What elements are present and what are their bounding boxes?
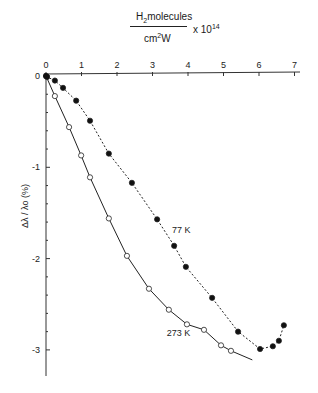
- data-point: [201, 327, 206, 332]
- data-point: [129, 180, 134, 185]
- chart-plot: 012345670-1-2-377 K273 K: [0, 0, 318, 393]
- data-point: [184, 322, 189, 327]
- x-tick-label: 2: [114, 60, 119, 70]
- data-point: [228, 348, 233, 353]
- x-tick-label: 4: [185, 60, 190, 70]
- curve-273k: [46, 76, 252, 360]
- curve-77k: [46, 76, 284, 349]
- data-point: [257, 346, 262, 351]
- y-tick-label: -3: [32, 345, 40, 355]
- data-point: [87, 118, 92, 123]
- data-point: [52, 93, 57, 98]
- x-tick-label: 7: [292, 60, 297, 70]
- data-point: [276, 338, 281, 343]
- data-point: [52, 78, 57, 83]
- x-tick-label: 1: [79, 60, 84, 70]
- origin-point: [43, 73, 49, 79]
- data-point: [146, 286, 151, 291]
- x-tick-label: 6: [256, 60, 261, 70]
- x-axis-line: [44, 72, 300, 74]
- series-label: 273 K: [167, 328, 191, 338]
- y-tick-label: 0: [35, 71, 40, 81]
- data-point: [87, 175, 92, 180]
- data-point: [166, 307, 171, 312]
- data-point: [106, 216, 111, 221]
- data-point: [74, 98, 79, 103]
- data-point: [235, 329, 240, 334]
- data-point: [124, 253, 129, 258]
- x-tick-label: 5: [221, 60, 226, 70]
- x-tick-label: 0: [43, 60, 48, 70]
- data-point: [218, 343, 223, 348]
- data-point: [106, 151, 111, 156]
- data-point: [281, 323, 286, 328]
- data-point: [172, 243, 177, 248]
- data-point: [66, 125, 71, 130]
- series-label: 77 K: [172, 225, 191, 235]
- data-point: [155, 217, 160, 222]
- data-point: [210, 295, 215, 300]
- x-tick-label: 3: [150, 60, 155, 70]
- y-tick-label: -2: [32, 254, 40, 264]
- data-point: [183, 264, 188, 269]
- y-tick-label: -1: [32, 162, 40, 172]
- data-point: [79, 153, 84, 158]
- data-point: [270, 344, 275, 349]
- data-point: [60, 85, 65, 90]
